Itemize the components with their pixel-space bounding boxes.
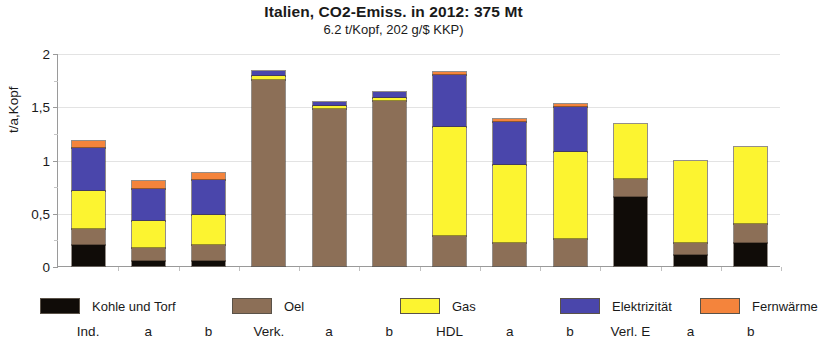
x-tick-mark — [480, 267, 481, 271]
legend-item-gas[interactable]: Gas — [400, 294, 476, 318]
legend-label-oel: Oel — [284, 299, 304, 314]
bar-segment — [313, 109, 346, 266]
bar-1 — [72, 141, 105, 266]
x-tick-mark — [721, 267, 722, 271]
bar-segment — [734, 147, 767, 225]
bar-segment — [132, 189, 165, 221]
legend-swatch-oel — [232, 298, 272, 314]
x-tick-label: Ind. — [77, 324, 100, 339]
bar-segment — [373, 101, 406, 266]
bar-segment — [192, 180, 225, 215]
y-tick-label: 2 — [42, 47, 50, 62]
legend-swatch-fernwaerme — [700, 298, 740, 314]
bar-segment — [734, 243, 767, 266]
bar-segment — [433, 75, 466, 126]
bar-segment — [132, 221, 165, 248]
legend-label-kohle: Kohle und Torf — [92, 299, 176, 314]
bar-segment — [554, 152, 587, 239]
bar-segment — [614, 179, 647, 197]
x-tick-mark — [118, 267, 119, 271]
bar-5 — [313, 102, 346, 266]
bar-segment — [674, 161, 707, 243]
bar-segment — [132, 261, 165, 266]
x-tick-label: a — [325, 324, 333, 339]
x-tick-label: Verl. E — [610, 324, 650, 339]
chart-subtitle: 6.2 t/Kopf, 202 g/$ KKP) — [0, 21, 787, 38]
y-tick-label: 0,5 — [31, 206, 50, 221]
bar-segment — [192, 261, 225, 266]
x-tick-label: a — [687, 324, 695, 339]
x-tick-mark — [239, 267, 240, 271]
bar-9 — [554, 104, 587, 266]
x-tick-mark — [299, 267, 300, 271]
bar-segment — [614, 197, 647, 266]
y-tick-mark — [53, 107, 58, 108]
bar-6 — [373, 92, 406, 266]
x-tick-label: a — [145, 324, 153, 339]
x-tick-mark — [179, 267, 180, 271]
legend-swatch-kohle — [40, 298, 80, 314]
bar-segment — [674, 243, 707, 256]
legend-swatch-elektrizitaet — [560, 298, 600, 314]
legend-item-fernwaerme[interactable]: Fernwärme — [700, 294, 818, 318]
x-tick-label: b — [205, 324, 213, 339]
legend-item-oel[interactable]: Oel — [232, 294, 304, 318]
bar-3 — [192, 173, 225, 266]
bar-segment — [192, 245, 225, 261]
y-axis-title: t/a,Kopf — [6, 86, 21, 133]
bar-11 — [674, 161, 707, 266]
bar-segment — [554, 239, 587, 266]
x-tick-label: b — [386, 324, 394, 339]
bar-8 — [493, 119, 526, 266]
x-tick-label: a — [506, 324, 514, 339]
bar-segment — [734, 224, 767, 242]
y-tick-mark — [53, 214, 58, 215]
bar-segment — [72, 148, 105, 192]
legend-swatch-gas — [400, 298, 440, 314]
x-tick-label: b — [747, 324, 755, 339]
legend-label-gas: Gas — [452, 299, 476, 314]
gridline — [58, 54, 780, 55]
gridline — [58, 214, 780, 215]
x-tick-mark — [420, 267, 421, 271]
legend: Kohle und TorfOelGasElektrizitätFernwärm… — [0, 294, 787, 321]
plot-area: 00,511,52 Ind.abVerk.abHDLabVerl. Eab — [57, 54, 780, 267]
y-tick-mark — [53, 54, 58, 55]
bar-segment — [493, 243, 526, 266]
y-tick-label: 1 — [42, 153, 50, 168]
bar-10 — [614, 124, 647, 266]
x-tick-mark — [359, 267, 360, 271]
bar-segment — [493, 122, 526, 165]
y-tick-label: 1,5 — [31, 100, 50, 115]
bar-2 — [132, 181, 165, 266]
bar-segment — [433, 236, 466, 266]
bar-segment — [554, 107, 587, 152]
y-tick-minor — [54, 81, 58, 82]
bar-segment — [614, 124, 647, 178]
x-tick-label: b — [566, 324, 574, 339]
legend-item-elektrizitaet[interactable]: Elektrizität — [560, 294, 672, 318]
y-tick-mark — [53, 161, 58, 162]
x-tick-mark — [661, 267, 662, 271]
x-tick-mark — [540, 267, 541, 271]
bar-12 — [734, 147, 767, 266]
legend-label-fernwaerme: Fernwärme — [752, 299, 818, 314]
bar-segment — [192, 215, 225, 245]
bar-segment — [674, 255, 707, 266]
page-title: Italien, CO2-Emiss. in 2012: 375 Mt — [0, 2, 787, 21]
bar-segment — [433, 127, 466, 237]
bar-segment — [72, 191, 105, 228]
y-tick-mark — [53, 267, 58, 268]
bar-segment — [132, 181, 165, 190]
legend-label-elektrizitaet: Elektrizität — [612, 299, 672, 314]
y-tick-minor — [54, 187, 58, 188]
gridline — [58, 161, 780, 162]
bar-4 — [252, 71, 285, 266]
x-tick-mark — [600, 267, 601, 271]
bar-7 — [433, 72, 466, 266]
legend-item-kohle[interactable]: Kohle und Torf — [40, 294, 176, 318]
x-tick-mark — [781, 267, 782, 271]
bar-segment — [493, 165, 526, 243]
bar-segment — [72, 245, 105, 266]
y-tick-minor — [54, 134, 58, 135]
